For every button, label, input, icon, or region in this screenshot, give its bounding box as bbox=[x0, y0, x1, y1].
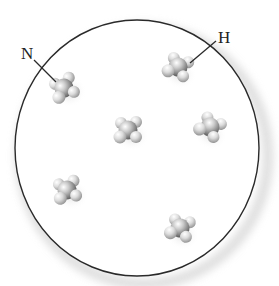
nitrogen-label: N bbox=[21, 45, 33, 62]
hydrogen-label: H bbox=[218, 29, 230, 46]
ammonia-container-diagram bbox=[0, 0, 279, 286]
diagram-canvas: N H bbox=[0, 0, 279, 286]
